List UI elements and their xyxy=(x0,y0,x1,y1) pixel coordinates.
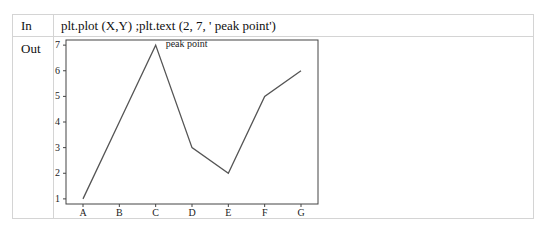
in-label: In xyxy=(21,18,32,34)
x-tick-label: A xyxy=(79,207,87,216)
plot-frame xyxy=(66,40,318,204)
x-tick-label: D xyxy=(188,207,195,216)
y-tick-label: 4 xyxy=(55,116,60,127)
x-tick-label: F xyxy=(262,207,268,216)
y-tick-label: 1 xyxy=(55,193,60,204)
x-tick-label: E xyxy=(225,207,231,216)
y-tick-label: 3 xyxy=(55,142,60,153)
x-tick-label: G xyxy=(297,207,304,216)
out-label: Out xyxy=(21,41,41,57)
line-chart: 1234567ABCDEFGpeak point xyxy=(52,36,332,216)
y-tick-label: 5 xyxy=(55,90,60,101)
peak-annotation: peak point xyxy=(166,38,208,49)
x-tick-label: B xyxy=(116,207,123,216)
data-line xyxy=(83,45,301,199)
input-row: In plt.plot (X,Y) ;plt.text (2, 7, ' pea… xyxy=(13,15,533,37)
x-tick-label: C xyxy=(152,207,159,216)
y-tick-label: 2 xyxy=(55,167,60,178)
code-input[interactable]: plt.plot (X,Y) ;plt.text (2, 7, ' peak p… xyxy=(61,18,276,34)
y-tick-label: 6 xyxy=(55,65,60,76)
y-tick-label: 7 xyxy=(55,39,60,50)
